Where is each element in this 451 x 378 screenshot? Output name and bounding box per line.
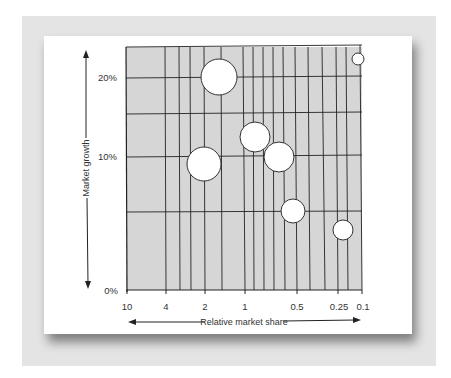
- bubble-1: [201, 59, 237, 95]
- x-tick-0-1: 0.1: [356, 301, 369, 312]
- bubble-2: [187, 147, 221, 181]
- bubble-3: [240, 122, 270, 152]
- x-tick-0-25: 0.25: [330, 301, 349, 312]
- y-axis-label: Market growth: [81, 139, 91, 196]
- x-tick-0-5: 0.5: [290, 301, 303, 312]
- x-tick-2: 2: [202, 301, 207, 312]
- x-tick-1: 1: [242, 301, 247, 312]
- y-tick-20: 20%: [98, 72, 118, 83]
- x-tick-10: 10: [122, 301, 133, 312]
- bubble-6: [333, 220, 353, 240]
- y-tick-10: 10%: [98, 151, 118, 162]
- x-tick-4: 4: [163, 301, 168, 312]
- bubble-4: [264, 142, 294, 172]
- y-tick-0: 0%: [104, 285, 118, 296]
- bubble-chart: 20% 10% 0% 10 4 2 1 0.5 0.25 0.1 Relativ…: [0, 0, 451, 378]
- bubble-7: [352, 53, 364, 65]
- x-axis-label: Relative market share: [200, 317, 288, 327]
- bubble-5: [281, 199, 305, 223]
